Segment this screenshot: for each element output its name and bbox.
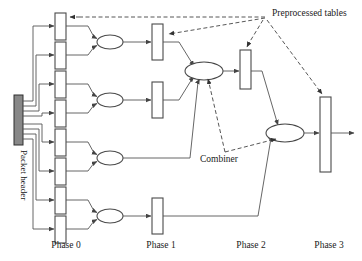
dash-combiner-upper xyxy=(209,83,225,152)
phase1-boxes xyxy=(152,24,163,234)
wire-b2-e1-arrow xyxy=(94,95,97,97)
phase3-boxes xyxy=(320,97,331,172)
phase-label-0: Phase 0 xyxy=(51,240,81,250)
wire-e2-combiner xyxy=(190,82,198,158)
dash-to-phase3 xyxy=(267,20,319,90)
wire-b3-e1 xyxy=(66,105,94,113)
combiner-leaders: Combiner xyxy=(200,79,276,164)
phase3-combiner[interactable] xyxy=(266,124,304,142)
phase-label-2: Phase 2 xyxy=(236,240,266,250)
wire-header-b1 xyxy=(23,55,49,106)
phase0-box-0[interactable] xyxy=(55,13,66,40)
wire-b0-e0 xyxy=(66,26,94,37)
wire-p1b2-lower-combiner xyxy=(163,138,271,216)
wire-header-b3 xyxy=(23,113,49,116)
wire-b4-e2 xyxy=(66,142,94,153)
dash-to-phase2-arrow xyxy=(247,43,249,47)
pipeline-diagram: Packet header xyxy=(0,0,362,261)
phase2-combiner-group xyxy=(185,62,239,80)
phase1-box-1[interactable] xyxy=(152,82,163,118)
phase1-box-0[interactable] xyxy=(152,24,163,60)
wire-p2box-lower-combiner xyxy=(251,71,277,122)
dash-to-phase1-arrow xyxy=(169,33,175,34)
phase-labels: Phase 0 Phase 1 Phase 2 Phase 3 xyxy=(51,240,344,250)
wire-b6-e3 xyxy=(66,200,94,211)
wire-b2-e1 xyxy=(66,84,94,95)
phase0-box-4[interactable] xyxy=(55,129,66,156)
phase0-combiner-0[interactable] xyxy=(97,35,123,49)
combiner-label: Combiner xyxy=(200,154,239,164)
phase0-box-5[interactable] xyxy=(55,158,66,185)
wire-b5-e2-arrow xyxy=(94,162,97,164)
phase0-combiner-1[interactable] xyxy=(97,93,123,107)
wire-b4-e2-arrow xyxy=(94,153,97,155)
phase0-box-1[interactable] xyxy=(55,42,66,69)
phase0-boxes xyxy=(55,13,66,243)
dash-combiner-lower xyxy=(225,140,272,152)
phase0-box-6[interactable] xyxy=(55,187,66,214)
phase0-combiner-2[interactable] xyxy=(97,151,123,165)
phase2-boxes xyxy=(240,50,251,89)
phase2-to-lower-combiner xyxy=(251,71,278,125)
wire-b1-e0 xyxy=(66,47,94,55)
wire-b5-e2 xyxy=(66,163,94,171)
phase0-box-3[interactable] xyxy=(55,100,66,127)
phase0-box-7[interactable] xyxy=(55,216,66,243)
wire-b7-e3 xyxy=(66,221,94,229)
preprocessed-tables-label: Preprocessed tables xyxy=(272,8,347,18)
packet-header-label: Packet header xyxy=(19,150,29,200)
wire-b1-e0-arrow xyxy=(94,46,97,48)
wire-b3-e1-arrow xyxy=(94,104,97,106)
dash-to-phase3-arrow xyxy=(319,90,322,94)
phase1-box-2[interactable] xyxy=(152,198,163,234)
phase0-box-2[interactable] xyxy=(55,71,66,98)
wire-b6-e3-arrow xyxy=(94,211,97,213)
phase2-box-0[interactable] xyxy=(240,50,251,89)
phase0-ellipses xyxy=(97,35,123,223)
phase2-combiner[interactable] xyxy=(185,62,223,80)
phase3-box-0[interactable] xyxy=(320,97,331,172)
packet-header-bar xyxy=(14,95,23,145)
dash-to-phase2 xyxy=(249,20,263,43)
phase0-combiner-3[interactable] xyxy=(97,209,123,223)
phase-label-3: Phase 3 xyxy=(314,240,344,250)
wire-p1b0-combiner xyxy=(163,42,192,63)
wire-b0-e0-arrow xyxy=(94,37,97,39)
phase-label-1: Phase 1 xyxy=(146,240,176,250)
dash-to-phase1 xyxy=(175,18,265,33)
phase0-to-ellipse-wires xyxy=(66,26,97,229)
figure-canvas: Packet header xyxy=(0,0,362,261)
wire-b7-e3-arrow xyxy=(94,220,97,222)
wire-p1b1-combiner xyxy=(163,79,192,100)
